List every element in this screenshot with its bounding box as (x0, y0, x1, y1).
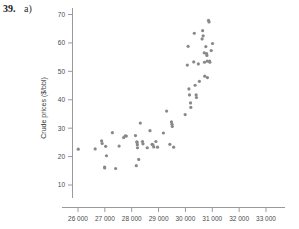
data-point (136, 143, 139, 146)
data-point (172, 146, 175, 149)
data-point (117, 144, 120, 147)
data-point (201, 29, 204, 32)
data-point (192, 60, 195, 63)
x-tick-label: 28 000 (122, 215, 142, 222)
data-point (187, 87, 190, 90)
x-tick-label: 32 000 (229, 215, 249, 222)
data-points-group (77, 19, 214, 170)
data-point (188, 93, 191, 96)
y-axis-ticks: 10203040506070 (58, 11, 73, 189)
data-point (146, 146, 149, 149)
y-tick-label: 30 (58, 125, 66, 132)
y-axis-title: Crude prices ($/bbl) (40, 77, 48, 138)
x-tick-label: 26 000 (68, 215, 88, 222)
data-point (114, 167, 117, 170)
data-point (94, 147, 97, 150)
data-point (202, 34, 205, 37)
data-point (111, 131, 114, 134)
data-point (136, 146, 139, 149)
data-point (194, 84, 197, 87)
y-tick-label: 50 (58, 68, 66, 75)
data-point (139, 121, 142, 124)
data-point (101, 142, 104, 145)
data-point (137, 158, 140, 161)
y-tick-label: 60 (58, 39, 66, 46)
data-point (162, 131, 165, 134)
data-point (189, 101, 192, 104)
data-point (168, 143, 171, 146)
data-point (125, 135, 128, 138)
data-point (186, 63, 189, 66)
data-point (200, 37, 203, 40)
data-point (184, 113, 187, 116)
x-tick-label: 29 000 (149, 215, 169, 222)
x-axis-group: 26 00027 00028 00029 00030 00031 00032 0… (62, 208, 285, 223)
data-point (104, 145, 107, 148)
x-tick-label: 27 000 (95, 215, 115, 222)
figure-scatter-crude-prices: 39. a) 10203040506070 Crude prices ($/bb… (0, 0, 299, 229)
y-tick-label: 10 (58, 181, 66, 188)
y-axis-group: 10203040506070 Crude prices ($/bbl) (40, 8, 73, 198)
y-tick-label: 40 (58, 96, 66, 103)
data-point (152, 145, 155, 148)
y-tick-label: 70 (58, 11, 66, 18)
y-tick-label: 20 (58, 153, 66, 160)
data-point (171, 125, 174, 128)
data-point (154, 140, 157, 143)
data-point (189, 106, 192, 109)
data-point (207, 20, 210, 23)
data-point (197, 62, 200, 65)
data-point (134, 134, 137, 137)
data-point (187, 45, 190, 48)
data-point (193, 32, 196, 35)
data-point (135, 164, 138, 167)
data-point (156, 146, 159, 149)
data-point (103, 166, 106, 169)
data-point (211, 42, 214, 45)
data-point (206, 76, 209, 79)
data-point (141, 142, 144, 145)
x-tick-label: 31 000 (202, 215, 222, 222)
data-point (205, 54, 208, 57)
data-point (204, 45, 207, 48)
data-point (165, 110, 168, 113)
x-tick-label: 33 000 (256, 215, 276, 222)
data-point (77, 148, 80, 151)
data-point (105, 154, 108, 157)
x-axis-ticks: 26 00027 00028 00029 00030 00031 00032 0… (68, 208, 276, 223)
data-point (208, 61, 211, 64)
data-point (210, 49, 213, 52)
data-point (148, 129, 151, 132)
data-point (198, 80, 201, 83)
data-point (195, 96, 198, 99)
scatter-plot-svg: 10203040506070 Crude prices ($/bbl) 26 0… (0, 0, 299, 229)
x-tick-label: 30 000 (175, 215, 195, 222)
